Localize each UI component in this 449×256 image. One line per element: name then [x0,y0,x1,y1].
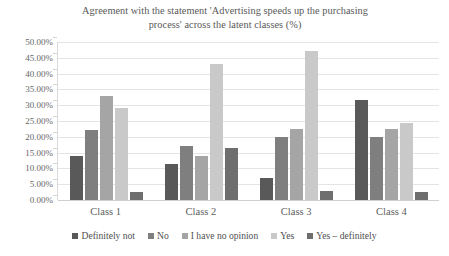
x-axis-category-label: Class 2 [153,202,248,224]
bar-groups [59,42,439,200]
bar [100,96,113,200]
legend-swatch-icon [148,233,154,239]
bar [260,178,273,200]
bar [275,137,288,200]
y-axis-tick-label: 50.00% [0,38,53,47]
plot-area [57,42,439,200]
bar [165,164,178,200]
legend-item[interactable]: I have no opinion [182,231,258,241]
y-axis-tick-mark [53,37,57,38]
bar [210,64,223,200]
bar [305,51,318,200]
bar [85,130,98,200]
chart-title-line-1: Agreement with the statement 'Advertisin… [34,4,416,18]
axis-baseline [58,200,439,201]
bar [115,108,128,200]
bar-group [249,42,344,200]
legend-swatch-icon [182,233,188,239]
chart-title-line-2: process' across the latent classes (%) [34,18,416,32]
legend-item[interactable]: Definitely not [72,231,135,241]
x-axis-category-label: Class 1 [58,202,153,224]
bar [180,146,193,200]
bar [130,192,143,200]
bar [400,123,413,200]
y-axis-tick-label: 30.00% [0,101,53,110]
bar [70,156,83,200]
bar [370,137,383,200]
bar [195,156,208,200]
bar [355,100,368,200]
y-axis-tick-label: 35.00% [0,85,53,94]
legend-item-label: I have no opinion [191,231,258,241]
y-axis-tick-label: 45.00% [0,53,53,62]
legend-swatch-icon [307,233,313,239]
legend-item-label: Definitely not [81,231,135,241]
y-axis-tick-label: 25.00% [0,117,53,126]
plot-wrapper: 50.00%45.00%40.00%35.00%30.00%25.00%20.0… [0,42,449,208]
y-axis-tick-label: 10.00% [0,164,53,173]
legend-item[interactable]: Yes – definitely [307,231,376,241]
y-axis-tick-label: 5.00% [0,180,53,189]
x-axis-category-label: Class 4 [344,202,439,224]
bar-group [59,42,154,200]
bar [320,191,333,200]
bar [385,129,398,200]
bar [290,129,303,200]
legend-item-label: Yes [280,231,294,241]
x-axis: Class 1Class 2Class 3Class 4 [58,202,439,224]
bar-group [154,42,249,200]
y-axis-tick-label: 15.00% [0,148,53,157]
bar [225,148,238,200]
y-axis-tick-label: 40.00% [0,69,53,78]
y-axis-tick-label: 0.00% [0,196,53,205]
legend-item[interactable]: Yes [271,231,294,241]
x-axis-category-label: Class 3 [249,202,344,224]
legend-item[interactable]: No [148,231,169,241]
y-axis-tick-label: 20.00% [0,132,53,141]
legend-swatch-icon [72,233,78,239]
legend-swatch-icon [271,233,277,239]
bar-group [344,42,439,200]
chart-legend: Definitely notNoI have no opinionYesYes … [0,231,449,241]
chart-title: Agreement with the statement 'Advertisin… [34,4,416,31]
y-axis: 50.00%45.00%40.00%35.00%30.00%25.00%20.0… [0,42,57,208]
legend-item-label: Yes – definitely [316,231,376,241]
bar [415,192,428,200]
bar-chart: Agreement with the statement 'Advertisin… [0,0,449,256]
legend-item-label: No [157,231,169,241]
